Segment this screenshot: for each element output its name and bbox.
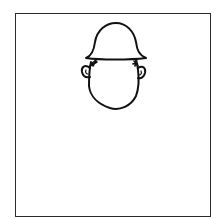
face-outline	[89, 62, 139, 109]
left-hair	[90, 60, 97, 66]
helmet-head-drawing	[0, 0, 220, 219]
helmet-icon	[86, 23, 146, 60]
